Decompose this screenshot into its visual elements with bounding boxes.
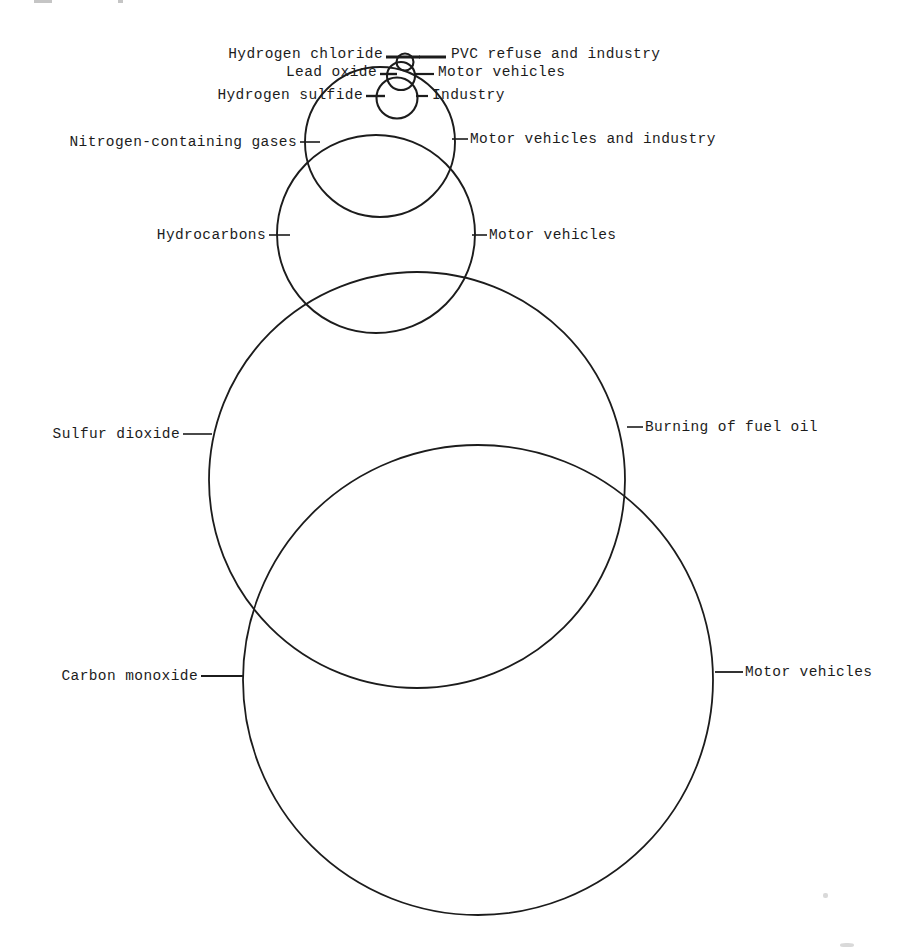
bubble-hydrogen-sulfide	[377, 78, 418, 119]
pollutant-label-lead-oxide: Lead oxide	[286, 65, 377, 80]
bubble-circles-group	[209, 54, 713, 916]
scan-artifact-top-left	[34, 0, 52, 3]
pollutant-label-hydrocarbons: Hydrocarbons	[157, 228, 266, 243]
bubble-carbon-monoxide	[243, 445, 713, 915]
scan-artifact-top-right	[118, 0, 123, 3]
leader-lines-group	[183, 57, 743, 676]
source-label-5-burning-of-fuel-oil: Burning of fuel oil	[645, 420, 818, 435]
pollutant-label-hydrogen-sulfide: Hydrogen sulfide	[217, 88, 363, 103]
scan-artifact-bottom-right-mark	[840, 943, 854, 947]
source-label-3-motor-vehicles-and-industry: Motor vehicles and industry	[470, 132, 716, 147]
scan-artifact-bottom-right-dot	[823, 893, 828, 898]
source-label-2-industry: Industry	[432, 88, 505, 103]
pollutant-label-sulfur-dioxide: Sulfur dioxide	[53, 427, 180, 442]
bubble-diagram: Hydrogen chlorideLead oxideHydrogen sulf…	[0, 0, 922, 951]
pollutant-label-hydrogen-chloride: Hydrogen chloride	[228, 47, 383, 62]
source-label-1-motor-vehicles: Motor vehicles	[438, 65, 565, 80]
pollutant-label-carbon-monoxide: Carbon monoxide	[61, 669, 198, 684]
bubble-lead-oxide	[387, 62, 415, 90]
source-label-6-motor-vehicles: Motor vehicles	[745, 665, 872, 680]
source-label-4-motor-vehicles: Motor vehicles	[489, 228, 616, 243]
pollutant-label-nitrogen-containing-gases: Nitrogen-containing gases	[69, 135, 297, 150]
source-label-0-pvc-refuse-and-industry: PVC refuse and industry	[451, 47, 660, 62]
bubble-sulfur-dioxide	[209, 272, 625, 688]
